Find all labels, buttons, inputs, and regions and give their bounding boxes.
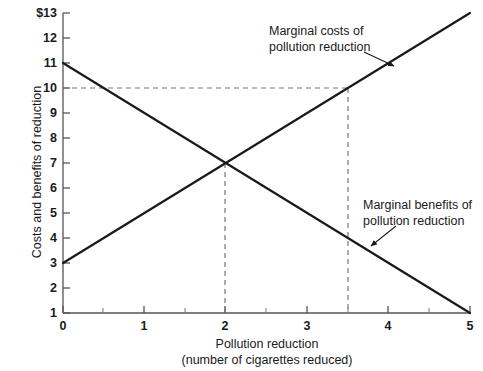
- y-axis-title: Costs and benefits of reduction: [30, 62, 44, 282]
- y-tick-label-6: 6: [0, 182, 57, 195]
- y-tick-label-5: 5: [0, 207, 57, 220]
- y-tick-label-7: 7: [0, 157, 57, 170]
- annotation-marginal-costs-line1: Marginal costs of: [269, 24, 370, 40]
- annotation-marginal-costs-line2: pollution reduction: [269, 40, 370, 56]
- y-tick-label-2: 2: [0, 282, 57, 295]
- y-tick-label-11: 11: [0, 57, 57, 70]
- y-tick-label-10: 10: [0, 82, 57, 95]
- x-tick-label-3: 3: [304, 320, 311, 333]
- x-axis-title-line1: Pollution reduction: [63, 337, 471, 353]
- chart-plot-area: [0, 0, 483, 371]
- annotation-marginal-costs: Marginal costs of pollution reduction: [269, 24, 370, 55]
- x-tick-label-0: 0: [60, 320, 67, 333]
- y-axis-ticks: [63, 13, 70, 313]
- annotation-marginal-benefits-line2: pollution reduction: [363, 214, 472, 230]
- y-tick-label-12: 12: [0, 32, 57, 45]
- y-tick-label-1: 1: [0, 307, 57, 320]
- x-axis-title-line2: (number of cigarettes reduced): [63, 353, 471, 369]
- annotation-marginal-benefits: Marginal benefits of pollution reduction: [363, 198, 472, 229]
- y-tick-label-4: 4: [0, 232, 57, 245]
- x-tick-label-2: 2: [222, 320, 229, 333]
- x-tick-label-5: 5: [467, 320, 474, 333]
- x-tick-label-4: 4: [385, 320, 392, 333]
- x-axis-title: Pollution reduction (number of cigarette…: [63, 337, 471, 368]
- chart-figure: $13 12 11 10 9 8 7 6 5 4 3 2 1 0 1 2 3 4…: [0, 0, 483, 371]
- y-tick-label-8: 8: [0, 132, 57, 145]
- series-marginal-benefits-line: [63, 63, 470, 313]
- annotation-marginal-benefits-line1: Marginal benefits of: [363, 198, 472, 214]
- y-tick-label-9: 9: [0, 107, 57, 120]
- y-tick-label-3: 3: [0, 257, 57, 270]
- x-axis-minor-ticks: [103, 308, 429, 313]
- guide-lines: [63, 88, 348, 313]
- y-tick-label-13: $13: [0, 7, 57, 20]
- x-tick-label-1: 1: [141, 320, 148, 333]
